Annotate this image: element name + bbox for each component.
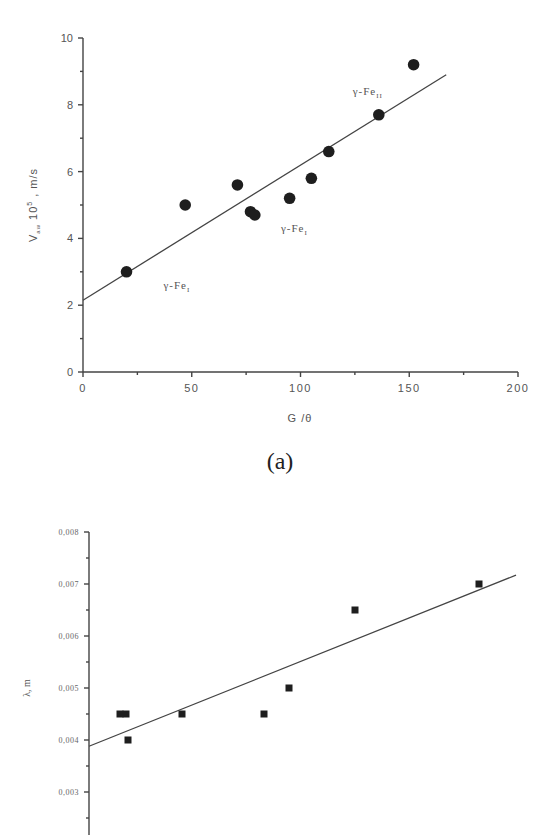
bottom-chart-tick-labels: 0,0030,0040,0050,0060,0070,008 [59,528,80,797]
data-point [261,711,268,718]
x-tick-label: 200 [507,382,530,394]
top-chart-axes [78,38,518,377]
y-tick-label: 2 [67,299,73,311]
data-point [306,172,318,184]
phase-annotation: γ-FeI [162,279,190,294]
data-point [123,711,130,718]
figure: 0246810050100150200 γ-FeIγ-FeIγ-FeII G /… [0,0,560,835]
y-tick-label: 0,008 [59,528,80,537]
y-tick-label: 0,007 [59,580,80,589]
top-chart-y-label: Vaw 105 , m/s [26,168,41,242]
data-point [323,146,335,158]
data-point [249,209,261,221]
data-point [179,711,186,718]
y-tick-label: 0,006 [59,632,80,641]
x-tick-label: 50 [184,382,199,394]
y-tick-label: 0,005 [59,684,80,693]
data-point [125,737,132,744]
top-chart-annotations: γ-FeIγ-FeIγ-FeII [162,85,382,294]
data-point [286,685,293,692]
data-point [352,607,359,614]
x-tick-label: 150 [398,382,421,394]
bottom-chart: 0,0030,0040,0050,0060,0070,008 λ, m [21,528,516,835]
y-tick-label: 0,004 [59,736,80,745]
x-tick-label: 0 [79,382,87,394]
top-chart-fit-line [83,75,446,300]
y-tick-label: 0,003 [59,788,80,797]
data-point [179,199,191,211]
y-tick-label: 0 [67,366,73,378]
data-point [373,109,385,121]
phase-annotation: γ-FeI [280,222,308,237]
top-chart-x-label: G /θ [288,412,313,424]
y-tick-label: 10 [61,32,73,44]
data-point [117,711,124,718]
bottom-chart-axes [84,532,89,835]
data-point [232,179,244,191]
y-tick-label: 4 [67,232,73,244]
bottom-chart-fit-line [89,575,516,746]
x-tick-label: 100 [289,382,312,394]
bottom-chart-y-label: λ, m [21,679,32,697]
phase-annotation: γ-FeII [352,85,383,100]
data-point [476,581,483,588]
data-point [284,193,296,205]
y-tick-label: 8 [67,99,73,111]
data-point [408,59,420,71]
y-tick-label: 6 [67,166,73,178]
top-chart: 0246810050100150200 γ-FeIγ-FeIγ-FeII G /… [26,32,529,424]
top-chart-tick-labels: 0246810050100150200 [61,32,530,394]
data-point [121,266,133,278]
figure-caption: (a) [0,448,560,475]
